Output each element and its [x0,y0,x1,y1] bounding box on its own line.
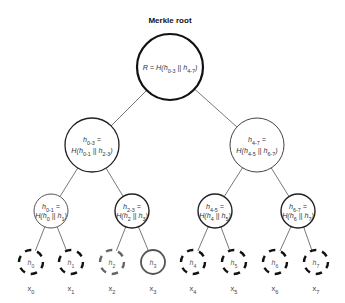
node-h2-3: h2-3 =H(h2 || h3) [115,194,149,228]
leaf-h1: h1x1 [59,250,83,295]
leaf-h4: h4x4 [181,250,205,295]
tree-leaves: h0x0h1x1h2x2h3x3h4x4h5x5h6x6h7x7 [19,250,328,295]
data-block-label: x2 [109,284,116,295]
edge-h4-5-to-h5 [221,227,230,251]
edge-h2-3-to-h3 [138,226,148,250]
edge-h4-7-to-h4-5 [224,167,243,196]
node-root: R = H(h0-3 || h4-7) [137,34,203,100]
edge-h6-7-to-h6 [280,226,291,251]
tree-edges [35,89,312,251]
edge-h0-1-to-h0 [35,227,45,251]
data-block-label: x4 [190,284,197,295]
node-h4-7: h4-7 =H(h4-5 || h6-7) [230,118,284,172]
edge-h2-3-to-h2 [116,227,126,251]
merkle-tree-diagram: Merkle root R = H(h0-3 || h4-7)h0-3 =H(h… [0,0,345,303]
edge-h4-7-to-h6-7 [271,167,289,196]
leaf-h6: h6x6 [263,250,287,295]
leaf-h3: h3x3 [141,250,165,295]
data-block-label: x5 [231,284,238,295]
leaf-h0: h0x0 [19,250,43,295]
edge-h6-7-to-h7 [304,227,312,251]
leaf-h2: h2x2 [100,250,124,295]
edge-h0-3-to-h2-3 [106,168,123,197]
merkle-root-title: Merkle root [148,16,191,25]
node-h0-1: h0-1 =H(h0 || h1) [34,194,68,228]
node-h6-7: h6-7 =H(h6 || h7) [281,194,315,228]
node-h4-5: h4-5 =H(h4 || h5) [198,194,232,228]
tree-nodes: R = H(h0-3 || h4-7)h0-3 =H(h0-1 || h2-3)… [34,34,315,228]
node-h0-3: h0-3 =H(h0-1 || h2-3) [65,118,119,172]
edge-h0-3-to-h0-1 [60,167,78,196]
data-block-label: x0 [28,284,35,295]
data-block-label: x1 [68,284,75,295]
data-block-label: x6 [272,284,279,295]
edge-h0-1-to-h1 [57,227,67,251]
data-block-label: x3 [150,284,157,295]
edge-h4-5-to-h4 [198,226,209,251]
leaf-h5: h5x5 [222,250,246,295]
edge-root-to-h4-7 [194,89,237,127]
edge-root-to-h0-3 [111,90,147,126]
leaf-h7: h7x7 [304,250,328,295]
data-block-label: x7 [313,284,320,295]
